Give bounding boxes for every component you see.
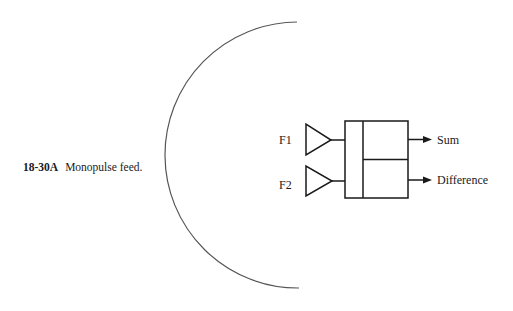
figure-number: 18-30A: [23, 161, 58, 173]
feed-horn-f2: [306, 166, 345, 196]
output-label-sum: Sum: [437, 133, 460, 147]
figure-caption-text: Monopulse feed.: [65, 161, 142, 173]
feed-label-f1: F1: [279, 133, 292, 147]
output-label-difference: Difference: [437, 173, 488, 187]
diagram-canvas: F1 F2 Sum Difference 18-30AMonopulse fee…: [0, 0, 513, 311]
sum-output-arrow: [408, 136, 432, 143]
figure-caption: 18-30AMonopulse feed.: [23, 161, 142, 173]
comparator-network: [345, 121, 408, 198]
feed-label-f2: F2: [279, 178, 292, 192]
difference-output-arrow: [408, 177, 432, 184]
reflector-dish: [165, 22, 299, 288]
feed-horn-f1: [306, 124, 345, 155]
